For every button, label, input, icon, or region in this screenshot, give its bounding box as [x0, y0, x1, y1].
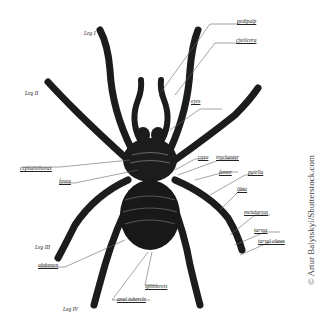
label-anal-tubercle: anal tubercle [117, 296, 146, 302]
label-abdomen: abdomen [38, 262, 58, 268]
label-coxa: coxa [198, 154, 208, 160]
label-metatarsus: metatarsus [244, 209, 268, 215]
label-eyes: eyes [191, 98, 200, 104]
leg-3-left [58, 180, 128, 258]
label-leg-1: Leg I [84, 30, 95, 36]
spider-anatomy-diagram: Leg I Leg II Leg III Leg IV pedipalp che… [0, 0, 321, 332]
label-leg-2: Leg II [25, 90, 38, 96]
label-femur: femur [219, 169, 232, 175]
label-leg-4: Leg IV [63, 306, 78, 312]
label-patella: patella [248, 169, 263, 175]
label-chelicera: chelicera [236, 37, 256, 43]
label-cephalothorax: cephalothorax [20, 165, 52, 171]
label-pedipalp: pedipalp [237, 18, 256, 24]
label-spinnerets: spinnerets [145, 283, 167, 289]
label-fovea: fovea [59, 178, 71, 184]
label-trochanter: trochanter [216, 154, 239, 160]
abdomen-shape [120, 180, 180, 250]
label-tibia: tibia [237, 186, 247, 192]
label-leg-3: Leg III [35, 244, 50, 250]
label-tarsus: tarsus [254, 227, 267, 233]
leg-1-right [170, 30, 198, 150]
leg-1-left [100, 30, 132, 150]
image-credit: © Artur Balytskyi/Shutterstock.com [306, 155, 316, 285]
label-tarsal-claws: tarsal claws [258, 238, 285, 244]
